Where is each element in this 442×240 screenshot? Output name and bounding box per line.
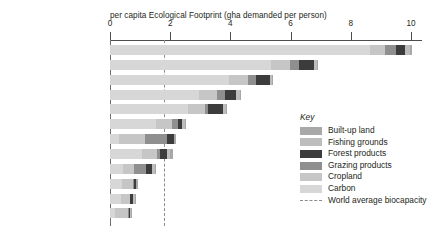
- legend-swatch-icon: [300, 127, 322, 135]
- x-axis-line: [110, 40, 422, 41]
- bar-segment-cropland: [156, 119, 173, 129]
- stacked-bar-peru: [110, 164, 156, 174]
- legend-swatch-icon: [300, 138, 322, 146]
- legend-item: World average biocapacity: [300, 195, 440, 207]
- bar-segment-carbon: [110, 149, 142, 159]
- bar-segment-built-up-land: [136, 179, 138, 189]
- bar-segment-built-up-land: [174, 134, 176, 144]
- legend-items: Built-up landFishing groundsForest produ…: [300, 125, 440, 206]
- stacked-bar-world-average: [110, 119, 186, 129]
- bar-segment-carbon: [110, 75, 229, 85]
- bar-segment-forest-products: [167, 134, 174, 144]
- bar-segment-forest-products: [208, 104, 223, 114]
- bar-segment-cropland: [142, 149, 158, 159]
- legend-item: Forest products: [300, 148, 440, 160]
- bar-segment-carbon: [110, 194, 121, 204]
- bar-segment-built-up-land: [170, 149, 173, 159]
- bar-segment-carbon: [110, 45, 370, 55]
- x-tick-label-6: 6: [288, 19, 293, 28]
- legend-item: Fishing grounds: [300, 137, 440, 149]
- legend-item: Cropland: [300, 171, 440, 183]
- ecological-footprint-chart: per capita Ecological Footprint (gha dem…: [0, 0, 442, 240]
- x-tick-label-4: 4: [228, 19, 233, 28]
- bar-row: Afghanistan: [0, 208, 442, 218]
- bar-segment-forest-products: [256, 75, 270, 85]
- bar-row: Canada: [0, 75, 442, 85]
- bar-segment-forest-products: [160, 149, 167, 159]
- bar-segment-built-up-land: [240, 90, 242, 100]
- legend-label: Fishing grounds: [328, 137, 388, 149]
- stacked-bar-united-kingdom: [110, 90, 241, 100]
- bar-segment-carbon: [110, 134, 119, 144]
- x-tick-label-2: 2: [168, 19, 173, 28]
- bar-segment-carbon: [110, 90, 199, 100]
- bar-segment-built-up-land: [131, 208, 132, 218]
- legend-label: World average biocapacity: [328, 195, 427, 207]
- stacked-bar-united-states-of-america: [110, 60, 318, 70]
- legend: Key Built-up landFishing groundsForest p…: [300, 112, 440, 206]
- stacked-bar-russia: [110, 104, 227, 114]
- x-tick-label-10: 10: [406, 19, 415, 28]
- bar-segment-cropland: [121, 194, 129, 204]
- legend-swatch-icon: [300, 173, 322, 181]
- legend-label: Cropland: [328, 171, 362, 183]
- stacked-bar-afghanistan: [110, 208, 132, 218]
- bar-segment-grazing-products: [248, 75, 256, 85]
- bar-segment-built-up-land: [155, 164, 157, 174]
- legend-swatch-icon: [300, 162, 322, 170]
- bar-segment-built-up-land: [226, 104, 228, 114]
- bar-segment-cropland: [229, 75, 248, 85]
- bar-segment-cropland: [271, 60, 290, 70]
- bar-segment-cropland: [122, 179, 133, 189]
- x-tick-2: [170, 32, 171, 40]
- stacked-bar-bangladesh: [110, 194, 136, 204]
- legend-swatch-icon: [300, 150, 322, 158]
- bar-segment-cropland: [119, 134, 145, 144]
- x-tick-10: [411, 32, 412, 40]
- legend-item: Carbon: [300, 183, 440, 195]
- bar-segment-grazing-products: [217, 90, 225, 100]
- stacked-bar-india: [110, 179, 138, 189]
- bar-segment-cropland: [188, 104, 205, 114]
- x-tick-4: [230, 32, 231, 40]
- stacked-bar-canada: [110, 75, 273, 85]
- bar-segment-cropland: [123, 164, 134, 174]
- bar-row: United States of America: [0, 60, 442, 70]
- legend-dash-line-icon: [300, 200, 322, 201]
- bar-segment-built-up-land: [185, 119, 187, 129]
- x-tick-0: [110, 32, 111, 40]
- stacked-bar-china: [110, 149, 173, 159]
- legend-title: Key: [300, 112, 440, 122]
- bar-segment-carbon: [110, 60, 271, 70]
- bar-segment-cropland: [370, 45, 384, 55]
- bar-row: United Kingdom: [0, 90, 442, 100]
- legend-item: Grazing products: [300, 160, 440, 172]
- x-tick-8: [351, 32, 352, 40]
- legend-label: Carbon: [328, 183, 355, 195]
- bar-segment-forest-products: [396, 45, 404, 55]
- stacked-bar-niger: [110, 134, 176, 144]
- bar-segment-built-up-land: [272, 75, 273, 85]
- bar-segment-forest-products: [225, 90, 236, 100]
- x-tick-label-0: 0: [108, 19, 113, 28]
- bar-segment-grazing-products: [134, 164, 146, 174]
- bar-segment-carbon: [110, 104, 188, 114]
- bar-segment-grazing-products: [385, 45, 396, 55]
- bar-segment-grazing-products: [290, 60, 299, 70]
- legend-label: Forest products: [328, 148, 386, 160]
- bar-segment-built-up-land: [410, 45, 412, 55]
- legend-swatch-icon: [300, 185, 322, 193]
- axis-title: per capita Ecological Footprint (gha dem…: [110, 11, 327, 20]
- stacked-bar-kuwait: [110, 45, 412, 55]
- bar-segment-grazing-products: [145, 134, 168, 144]
- legend-label: Grazing products: [328, 160, 392, 172]
- bar-segment-forest-products: [299, 60, 315, 70]
- x-tick-label-8: 8: [349, 19, 354, 28]
- bar-row: Kuwait: [0, 45, 442, 55]
- legend-label: Built-up land: [328, 125, 375, 137]
- bar-segment-cropland: [199, 90, 218, 100]
- legend-item: Built-up land: [300, 125, 440, 137]
- bar-segment-carbon: [110, 119, 156, 129]
- x-tick-6: [291, 32, 292, 40]
- bar-segment-carbon: [110, 164, 123, 174]
